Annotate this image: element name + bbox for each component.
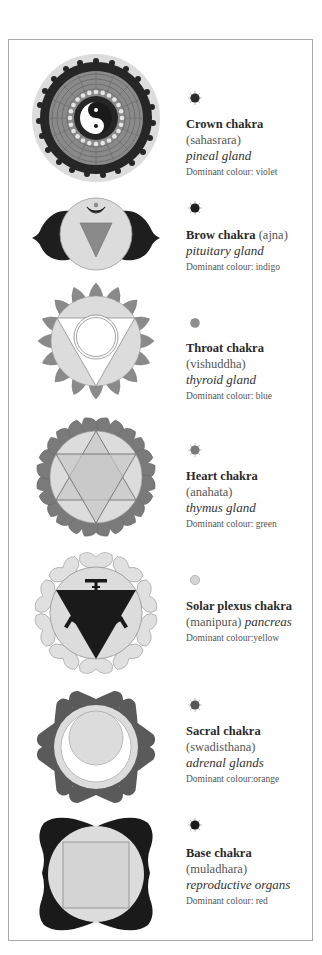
base-chakra-symbol-icon bbox=[34, 815, 158, 933]
chakra-sanskrit-name: (ajna) bbox=[259, 228, 288, 242]
chakra-dominant-colour: Dominant colour: indigo bbox=[186, 260, 316, 275]
chakra-sanskrit-name: (sahasrara) bbox=[186, 132, 316, 148]
chakra-gland: pineal gland bbox=[186, 148, 316, 164]
chakra-sanskrit-name: (vishuddha) bbox=[186, 356, 316, 372]
chakra-dominant-colour: Dominant colour: blue bbox=[186, 389, 316, 404]
chakra-title: Solar plexus chakra bbox=[186, 598, 316, 614]
chakra-sanskrit-name: (manipura) bbox=[186, 615, 242, 629]
brow-chakra-info: Brow chakra (ajna) pituitary gland Domin… bbox=[186, 227, 316, 275]
chakra-sanskrit-name: (muladhara) bbox=[186, 861, 316, 877]
chakra-dominant-colour: Dominant colour:orange bbox=[186, 772, 316, 787]
heart-chakra-symbol-icon bbox=[32, 415, 160, 540]
chakra-gland: pancreas bbox=[245, 614, 292, 629]
sacral-chakra-info: Sacral chakra (swadisthana) adrenal glan… bbox=[186, 723, 316, 787]
base-colour-dot-icon bbox=[188, 818, 202, 832]
brow-colour-dot-icon bbox=[188, 201, 202, 215]
throat-chakra-symbol-icon bbox=[36, 280, 156, 402]
chakra-dominant-colour: Dominant colour: violet bbox=[186, 165, 316, 180]
chakra-gland: thyroid gland bbox=[186, 372, 316, 388]
chakra-dominant-colour: Dominant colour: red bbox=[186, 894, 316, 909]
chakra-sanskrit-name: (swadisthana) bbox=[186, 739, 316, 755]
crown-chakra-info: Crown chakra (sahasrara) pineal gland Do… bbox=[186, 116, 316, 180]
sacral-colour-dot-icon bbox=[188, 698, 202, 712]
chakra-sanskrit-name: (anahata) bbox=[186, 484, 316, 500]
chakra-dominant-colour: Dominant colour:yellow bbox=[186, 631, 316, 646]
chakra-dominant-colour: Dominant colour: green bbox=[186, 517, 316, 532]
brow-chakra-symbol-icon bbox=[30, 195, 162, 273]
chakra-gland: adrenal glands bbox=[186, 755, 316, 771]
sacral-chakra-symbol-icon bbox=[32, 688, 160, 806]
base-chakra-info: Base chakra (muladhara) reproductive org… bbox=[186, 845, 316, 909]
throat-chakra-info: Throat chakra (vishuddha) thyroid gland … bbox=[186, 340, 316, 404]
chakra-title: Brow chakra bbox=[186, 228, 256, 242]
chakra-title: Base chakra bbox=[186, 845, 316, 861]
crown-colour-dot-icon bbox=[188, 91, 202, 105]
throat-colour-dot-icon bbox=[188, 316, 202, 330]
solar-plexus-colour-dot-icon bbox=[188, 573, 202, 587]
chakra-title: Heart chakra bbox=[186, 468, 316, 484]
chakra-gland: reproductive organs bbox=[186, 877, 316, 893]
chakra-title: Throat chakra bbox=[186, 340, 316, 356]
heart-chakra-info: Heart chakra (anahata) thymus gland Domi… bbox=[186, 468, 316, 532]
heart-colour-dot-icon bbox=[188, 443, 202, 457]
crown-chakra-symbol-icon bbox=[30, 52, 162, 184]
chakra-gland: pituitary gland bbox=[186, 243, 316, 259]
solar-plexus-chakra-info: Solar plexus chakra (manipura) pancreas … bbox=[186, 598, 316, 646]
chakra-title: Crown chakra bbox=[186, 116, 316, 132]
chakra-gland: thymus gland bbox=[186, 500, 316, 516]
chakra-title: Sacral chakra bbox=[186, 723, 316, 739]
solar-plexus-chakra-symbol-icon bbox=[30, 550, 162, 678]
